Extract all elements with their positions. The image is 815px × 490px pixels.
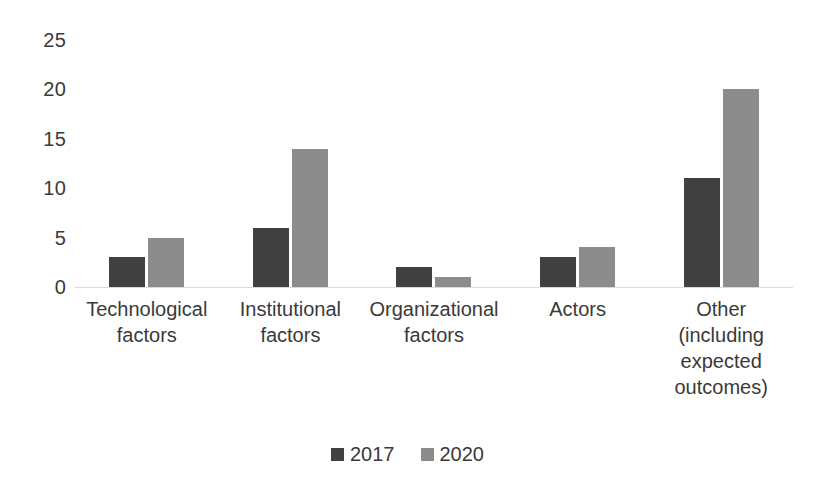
bar-group-bars	[362, 40, 506, 287]
x-axis-line	[75, 287, 793, 288]
y-axis-tick-label: 5	[4, 228, 66, 248]
x-axis-category-label: Other (including expected outcomes)	[649, 296, 793, 400]
bar-group-bars	[649, 40, 793, 287]
x-axis-category-label: Institutional factors	[219, 296, 363, 348]
legend-label: 2017	[350, 444, 395, 464]
bar-2017-2[interactable]	[396, 267, 432, 287]
bar-2020-1[interactable]	[292, 149, 328, 287]
legend-swatch-icon	[331, 448, 344, 461]
bar-2017-3[interactable]	[540, 257, 576, 287]
bar-2020-4[interactable]	[723, 89, 759, 287]
bar-group-bars	[75, 40, 219, 287]
x-axis-category-label: Technological factors	[75, 296, 219, 348]
bar-2020-3[interactable]	[579, 247, 615, 287]
y-axis-tick-label: 25	[4, 30, 66, 50]
bar-group	[75, 40, 219, 287]
bar-chart: 2520151050 20172020 Technological factor…	[0, 0, 815, 490]
y-axis-tick-label: 20	[4, 79, 66, 99]
bar-2017-1[interactable]	[253, 228, 289, 287]
bar-2020-2[interactable]	[435, 277, 471, 287]
bar-2017-4[interactable]	[684, 178, 720, 287]
y-axis-tick-label: 15	[4, 129, 66, 149]
legend-label: 2020	[440, 444, 485, 464]
legend-item-2017[interactable]: 2017	[331, 444, 395, 464]
bar-group	[649, 40, 793, 287]
y-axis-tick-label: 0	[4, 277, 66, 297]
bar-group	[506, 40, 650, 287]
chart-legend: 20172020	[0, 444, 815, 464]
bar-group-bars	[219, 40, 363, 287]
x-axis-category-label: Organizational factors	[362, 296, 506, 348]
bar-2020-0[interactable]	[148, 238, 184, 287]
bar-group	[219, 40, 363, 287]
legend-item-2020[interactable]: 2020	[421, 444, 485, 464]
bar-group	[362, 40, 506, 287]
plot-area	[75, 40, 793, 287]
x-axis-category-label: Actors	[506, 296, 650, 322]
bar-2017-0[interactable]	[109, 257, 145, 287]
legend-swatch-icon	[421, 448, 434, 461]
y-axis-tick-label: 10	[4, 178, 66, 198]
y-axis: 2520151050	[0, 0, 66, 490]
bar-group-bars	[506, 40, 650, 287]
